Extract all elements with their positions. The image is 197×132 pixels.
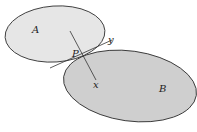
- contact-point-label: P: [71, 48, 79, 59]
- tangent-axis-label: y: [107, 34, 114, 45]
- body-b-label: B: [158, 83, 166, 94]
- body-a-label: A: [31, 24, 39, 35]
- normal-axis-label: x: [93, 79, 99, 90]
- contact-diagram: A B P y x: [0, 0, 197, 132]
